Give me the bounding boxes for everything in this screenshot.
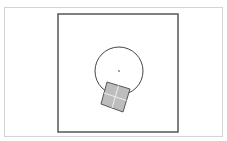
agent-box: [101, 82, 130, 112]
circle-center-dot: [118, 70, 120, 72]
simulation-canvas: [0, 0, 227, 141]
arena-boundary: [58, 14, 178, 132]
